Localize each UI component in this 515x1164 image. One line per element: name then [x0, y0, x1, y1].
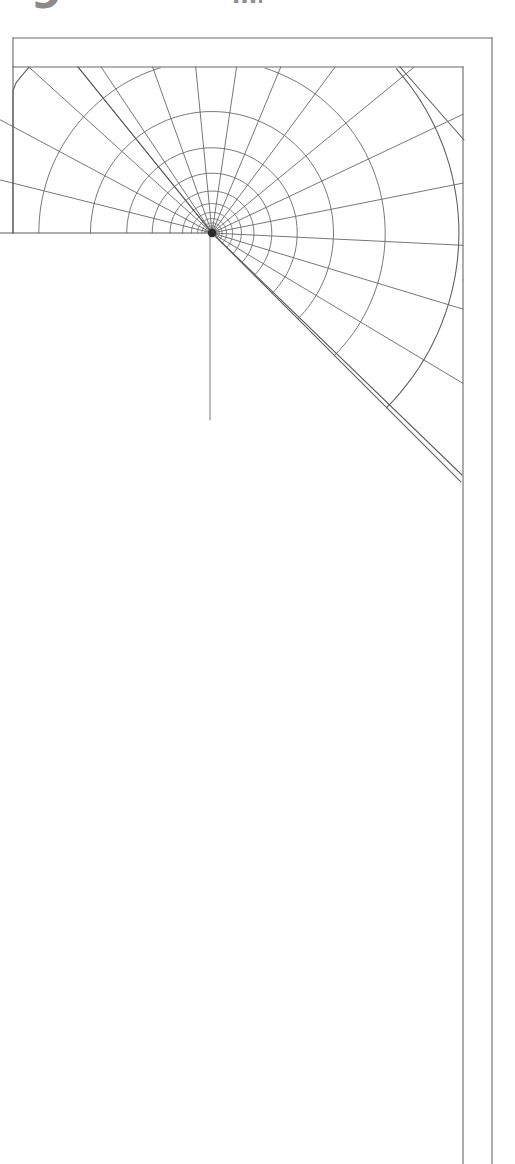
mesh-ray-11	[215, 114, 463, 231]
radial-mesh	[0, 67, 463, 482]
mesh-ring-10	[91, 112, 334, 319]
mesh-ray-4	[101, 67, 210, 230]
mesh-figure-svg	[0, 0, 515, 1164]
mesh-lower-right-boundary	[212, 233, 462, 475]
mesh-ray-12	[215, 183, 463, 232]
mesh-ring-12	[13, 67, 459, 407]
figure-drawing	[0, 0, 515, 1164]
specimen-frame	[13, 38, 492, 1164]
mesh-ray-9	[214, 67, 335, 230]
mesh-ring-13	[13, 67, 461, 482]
mesh-ray-15	[215, 235, 463, 384]
scanned-page: 9 mm	[0, 0, 515, 1164]
crack-tip-node	[208, 229, 216, 237]
mesh-ring-9	[127, 148, 297, 293]
mesh-ray-2	[0, 67, 209, 231]
mesh-ring-11	[39, 68, 385, 356]
